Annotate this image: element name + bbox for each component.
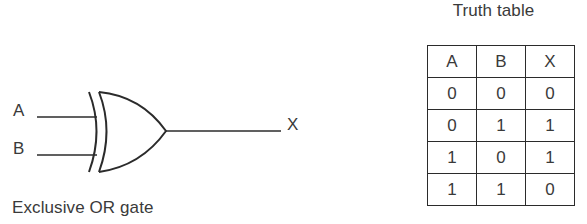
cell-a: 1 [428,174,477,206]
xor-inner-arc [99,92,107,172]
cell-x: 0 [526,78,575,110]
output-label-x: X [287,116,299,133]
cell-x: 1 [526,110,575,142]
truth-table-title: Truth table [400,1,587,21]
truth-table-header-row: A B X [428,46,575,78]
truth-table: A B X 0 0 0 0 1 1 1 0 [427,45,575,206]
cell-x: 0 [526,174,575,206]
input-label-b: B [13,140,25,157]
input-label-a: A [13,102,25,119]
cell-a: 0 [428,110,477,142]
gate-caption: Exclusive OR gate [12,198,154,218]
table-row: 1 0 1 [428,142,575,174]
cell-b: 1 [477,110,526,142]
truth-table-head: A B X [428,46,575,78]
cell-b: 0 [477,78,526,110]
truth-table-header-a: A [428,46,477,78]
xor-gate-figure: A B X Exclusive OR gate Truth table A B … [0,0,587,224]
gate-diagram-panel: A B X Exclusive OR gate [0,0,330,224]
cell-b: 0 [477,142,526,174]
cell-b: 1 [477,174,526,206]
truth-table-header-x: X [526,46,575,78]
truth-table-body: 0 0 0 0 1 1 1 0 1 1 1 0 [428,78,575,206]
table-row: 1 1 0 [428,174,575,206]
xor-outer-arc [89,92,97,172]
xor-gate-symbol [0,0,330,195]
table-row: 0 1 1 [428,110,575,142]
truth-table-header-b: B [477,46,526,78]
cell-x: 1 [526,142,575,174]
table-row: 0 0 0 [428,78,575,110]
cell-a: 1 [428,142,477,174]
or-body-outline [99,92,166,172]
cell-a: 0 [428,78,477,110]
truth-table-panel: Truth table A B X 0 0 0 0 1 1 [400,0,587,224]
